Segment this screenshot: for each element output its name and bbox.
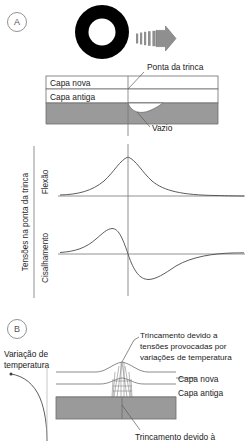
tire-icon — [75, 5, 129, 59]
plot-flexao: Flexão — [41, 157, 245, 196]
new-layer-label-a: Capa nova — [50, 78, 91, 88]
flexao-curve — [60, 157, 244, 196]
temperature-variation-label-line1: Variação de — [4, 349, 48, 359]
panel-a: A — [8, 5, 219, 136]
bottom-caption-label: Trincamento devido à — [135, 432, 216, 441]
new-layer-label-b: Capa nova — [178, 374, 219, 384]
panel-a-badge: A — [8, 13, 27, 32]
layer-callouts-b: Capa nova Capa antiga — [176, 374, 224, 398]
load-arrow-icon — [136, 26, 176, 51]
panel-b-letter: B — [14, 324, 20, 334]
stress-axis-title: Tensões na ponta da trinca — [21, 172, 30, 271]
temperature-curve — [11, 374, 47, 441]
pavement-cross-section-b — [56, 362, 176, 419]
base-block-b — [56, 397, 176, 419]
plot-flexao-label: Flexão — [41, 169, 50, 194]
panel-b: B Variação de temperatura — [4, 320, 232, 441]
panel-b-badge: B — [8, 320, 27, 339]
stress-chart: Tensões na ponta da trinca Flexão Cisalh… — [21, 144, 245, 298]
temperature-variation-label-line2: temperatura — [4, 360, 49, 370]
thermal-crack-annotation: Trincamento devido a tensões provocadas … — [122, 331, 232, 362]
new-layer-surface-b — [56, 362, 176, 372]
old-layer-label-a: Capa antiga — [50, 92, 96, 102]
thermal-crack-label-line1: Trincamento devido a — [140, 331, 218, 340]
crack-tip-label: Ponta da trinca — [147, 62, 204, 72]
plot-cisalhamento: Cisalhamento — [41, 229, 245, 284]
temperature-curve-group — [10, 366, 48, 441]
reflective-crack-hatch — [112, 362, 132, 397]
figure-root: A — [0, 0, 250, 441]
thermal-crack-label-line2: tensões provocadas por — [140, 342, 227, 351]
void-label: Vazio — [152, 123, 173, 133]
panel-a-letter: A — [14, 17, 20, 27]
old-layer-label-b: Capa antiga — [178, 388, 224, 398]
thermal-crack-label-line3: variações de temperatura — [140, 353, 232, 362]
plot-cisalhamento-label: Cisalhamento — [41, 233, 50, 284]
